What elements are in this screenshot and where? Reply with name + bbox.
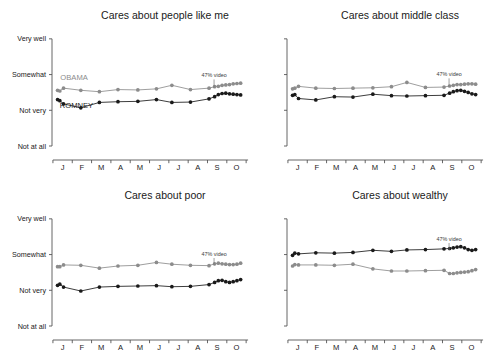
data-point [459, 245, 463, 249]
data-point [424, 269, 428, 273]
small-multiples-chart: Cares about people like meVery wellSomew… [0, 0, 488, 361]
data-point [333, 95, 337, 99]
data-point [474, 268, 478, 272]
data-point [228, 92, 232, 96]
x-tick-label: A [118, 163, 124, 172]
data-point [448, 272, 452, 276]
data-point [235, 93, 239, 97]
series-romney [56, 278, 243, 293]
data-point [224, 280, 228, 284]
annotation-label: 47% video [201, 72, 226, 78]
x-tick-label: M [333, 163, 339, 172]
panel-title: Cares about poor [124, 189, 206, 201]
data-point [155, 261, 159, 265]
data-point [213, 95, 217, 99]
data-point [314, 251, 318, 255]
x-tick-label: F [315, 343, 320, 352]
data-point [333, 87, 337, 91]
series-romney [291, 88, 478, 101]
data-point [448, 84, 452, 88]
x-tick-label: S [215, 163, 220, 172]
data-point [116, 88, 120, 92]
data-point [405, 94, 409, 98]
data-point [98, 101, 102, 105]
annotation-label: 47% video [201, 251, 226, 257]
y-tick-label: Somewhat [12, 70, 46, 79]
data-point [189, 285, 193, 289]
data-point [351, 86, 355, 90]
data-point [136, 100, 140, 104]
data-point [228, 83, 232, 87]
data-point [448, 247, 452, 251]
data-point [79, 289, 83, 293]
x-tick-label: A [118, 343, 124, 352]
series-obama [291, 81, 478, 91]
data-point [224, 91, 228, 95]
data-point [455, 89, 459, 93]
panel-cares-about-wealthy: Cares about wealthyJFMAMJJASO47% video [284, 189, 483, 352]
data-point [466, 82, 470, 86]
data-point [79, 88, 83, 92]
data-point [231, 263, 235, 267]
data-point [231, 92, 235, 96]
data-point [463, 90, 467, 94]
panel-cares-about-people-like-me: Cares about people like meVery wellSomew… [12, 9, 248, 172]
data-point [371, 86, 375, 90]
x-tick-label: M [98, 163, 104, 172]
x-tick-label: A [430, 163, 436, 172]
data-point [314, 98, 318, 102]
data-point [333, 251, 337, 255]
data-point [466, 248, 470, 252]
data-point [293, 251, 297, 255]
data-point [474, 82, 478, 86]
data-point [463, 82, 467, 86]
x-tick-label: J [412, 343, 416, 352]
data-point [239, 93, 243, 97]
data-point [459, 271, 463, 275]
data-point [189, 88, 193, 92]
data-point [62, 86, 66, 90]
data-point [62, 285, 66, 289]
data-point [470, 82, 474, 86]
data-point [470, 92, 474, 96]
x-tick-label: J [296, 343, 300, 352]
data-point [189, 263, 193, 267]
data-point [235, 82, 239, 86]
data-point [216, 279, 220, 283]
y-tick-label: Not at all [18, 322, 47, 331]
x-tick-label: J [157, 163, 161, 172]
x-tick-label: O [234, 163, 240, 172]
data-point [207, 86, 211, 90]
series-obama [56, 261, 243, 270]
x-tick-label: S [450, 163, 455, 172]
x-tick-label: O [469, 163, 475, 172]
data-point [116, 100, 120, 104]
data-point [207, 264, 211, 268]
x-tick-label: O [234, 343, 240, 352]
data-point [235, 262, 239, 266]
data-point [474, 248, 478, 252]
data-point [390, 269, 394, 273]
data-point [231, 82, 235, 86]
data-point [293, 263, 297, 267]
data-point [390, 94, 394, 98]
x-tick-label: J [296, 163, 300, 172]
data-point [224, 262, 228, 266]
x-tick-label: M [137, 343, 143, 352]
x-tick-label: J [177, 343, 181, 352]
data-point [216, 93, 220, 97]
data-point [155, 98, 159, 102]
data-point [239, 261, 243, 265]
data-point [314, 86, 318, 90]
x-tick-label: J [157, 343, 161, 352]
data-point [136, 263, 140, 267]
x-tick-label: O [469, 343, 475, 352]
data-point [459, 88, 463, 92]
data-point [239, 81, 243, 85]
data-point [297, 85, 301, 89]
data-point [98, 266, 102, 270]
data-point [442, 93, 446, 97]
series-line [293, 90, 476, 100]
data-point [455, 83, 459, 87]
data-point [424, 248, 428, 252]
